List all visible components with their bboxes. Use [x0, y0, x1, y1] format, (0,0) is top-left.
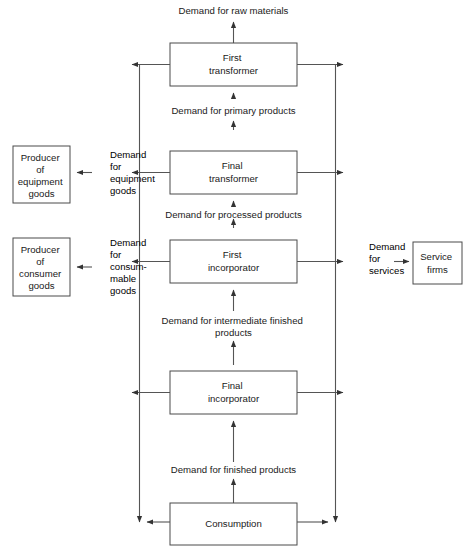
edge-label-demand-services: Demand for services	[369, 241, 408, 276]
edge-label-demand-consummable-goods: Demand for consum- mable goods	[110, 237, 149, 296]
edge-label-demand-primary-products: Demand for primary products	[171, 105, 295, 116]
node-label-consumption: Consumption	[205, 518, 262, 529]
edge-label-demand-equipment-goods: Demand for equipment goods	[110, 149, 157, 196]
flow-diagram-canvas: Demand for raw materials First transform…	[0, 0, 469, 554]
edge-label-demand-processed-products: Demand for processed products	[165, 209, 302, 220]
edge-label-demand-raw-materials: Demand for raw materials	[179, 5, 289, 16]
edge-label-demand-intermediate-finished-products: Demand for intermediate finished product…	[162, 315, 306, 338]
demand-chain-diagram: Demand for raw materials First transform…	[0, 0, 469, 554]
edge-label-demand-finished-products: Demand for finished products	[171, 464, 297, 475]
